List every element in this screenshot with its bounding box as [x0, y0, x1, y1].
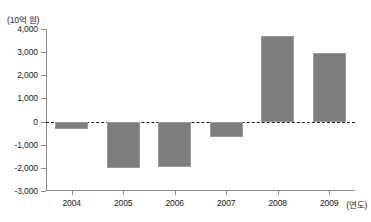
y-axis-tick — [41, 191, 46, 192]
x-axis-tick — [72, 191, 73, 195]
y-axis-tick — [41, 168, 46, 169]
y-axis-tick — [41, 29, 46, 30]
bar-chart: (10억 원) 4,0003,0002,0001,0000-1,000-2,00… — [0, 0, 371, 222]
bar-2004 — [55, 122, 88, 129]
y-axis-tick-label: 1,000 — [17, 93, 38, 103]
x-axis-tick-label: 2008 — [268, 198, 287, 208]
x-axis-tick — [329, 191, 330, 195]
y-axis-tick-label: -3,000 — [14, 186, 38, 196]
x-axis-tick-label: 2005 — [114, 198, 133, 208]
x-axis-tick — [226, 191, 227, 195]
bar-2005 — [107, 122, 140, 168]
y-axis-tick-label: -2,000 — [14, 163, 38, 173]
x-axis-tick — [278, 191, 279, 195]
y-axis-tick — [41, 52, 46, 53]
bar-2009 — [313, 53, 346, 122]
x-axis-tick-label: 2006 — [165, 198, 184, 208]
bar-2007 — [210, 122, 243, 137]
y-axis-tick-label: 3,000 — [17, 47, 38, 57]
bar-2006 — [158, 122, 191, 167]
y-axis-tick-label: 0 — [33, 117, 38, 127]
bar-2008 — [261, 36, 294, 122]
plot-area — [46, 29, 355, 191]
y-axis-tick — [41, 98, 46, 99]
y-axis-tick — [41, 145, 46, 146]
y-axis-tick-label: 4,000 — [17, 24, 38, 34]
y-axis-tick — [41, 75, 46, 76]
x-axis-tick-label: 2004 — [62, 198, 81, 208]
x-axis-tick-label: 2007 — [217, 198, 236, 208]
zero-reference-line — [46, 122, 355, 123]
y-axis-tick-label: -1,000 — [14, 140, 38, 150]
x-axis-tick — [123, 191, 124, 195]
y-axis-tick-label: 2,000 — [17, 70, 38, 80]
x-axis-tick — [175, 191, 176, 195]
x-axis-unit-label: (연도) — [346, 198, 367, 210]
x-axis-tick-label: 2009 — [320, 198, 339, 208]
